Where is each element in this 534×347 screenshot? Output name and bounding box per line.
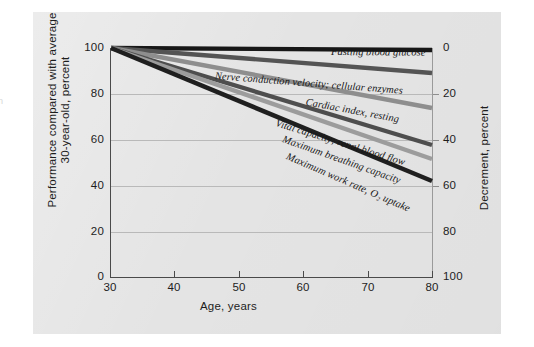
y-axis-left-title: Performance compared with average 30-yea… [46, 10, 72, 210]
y-left-tick-label-40: 40 [78, 179, 104, 191]
x-tick-label-70: 70 [353, 281, 383, 293]
y-left-tick-label-20: 20 [78, 225, 104, 237]
edge-text-fragment: n [0, 96, 4, 106]
x-tick-label-30: 30 [95, 281, 125, 293]
y-left-tick-label-60: 60 [78, 133, 104, 145]
y-right-tick-label-40: 40 [443, 133, 473, 145]
gridline-40 [110, 186, 432, 187]
x-tick-40 [174, 271, 175, 278]
y-right-tick-label-0: 0 [443, 41, 473, 53]
x-tick-60 [303, 271, 304, 278]
y-left-tick-label-80: 80 [78, 87, 104, 99]
x-tick-70 [368, 271, 369, 278]
right-tick-60 [433, 186, 439, 187]
x-tick-50 [239, 271, 240, 278]
y-axis-right-title: Decrement, percent [478, 88, 490, 228]
x-tick-30 [110, 271, 111, 278]
x-axis-line [110, 277, 433, 278]
x-tick-80 [432, 271, 433, 278]
y-right-tick-label-80: 80 [443, 225, 473, 237]
y-right-tick-label-20: 20 [443, 87, 473, 99]
gridline-60 [110, 140, 432, 141]
series-label-fasting-blood-glucose: Fasting blood glucose [331, 46, 426, 58]
x-tick-label-80: 80 [417, 281, 447, 293]
x-tick-label-60: 60 [288, 281, 318, 293]
x-tick-label-50: 50 [224, 281, 254, 293]
y-right-tick-label-100: 100 [443, 270, 473, 282]
right-tick-20 [433, 94, 439, 95]
right-tick-40 [433, 140, 439, 141]
y-axis-left-line [110, 48, 111, 278]
y-axis-right-line [432, 48, 433, 278]
gridline-20 [110, 232, 432, 233]
y-right-tick-label-60: 60 [443, 179, 473, 191]
x-tick-label-40: 40 [159, 281, 189, 293]
y-left-tick-label-100: 100 [78, 41, 104, 53]
x-axis-title: Age, years [200, 300, 257, 312]
figure-root: n 100 80 60 40 20 0 0 20 40 60 80 100 30… [0, 0, 534, 347]
